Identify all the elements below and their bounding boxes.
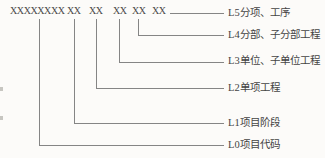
connector-horizontal-l0 (39, 145, 224, 146)
code-segment-l2: XX (89, 4, 103, 17)
connector-horizontal-l5 (170, 13, 224, 14)
code-segment-l5: XX (152, 4, 166, 17)
code-segment-l1: XX (67, 4, 81, 17)
level-label-l1: L1项目阶段 (228, 117, 280, 129)
connector-horizontal-l1 (74, 123, 224, 124)
connector-horizontal-l3 (119, 62, 224, 63)
connector-vertical-l1 (74, 19, 75, 123)
connector-vertical-l2 (96, 19, 97, 88)
scan-artifact (0, 87, 3, 91)
code-segment-l4: XX (132, 4, 146, 17)
connector-horizontal-l2 (96, 88, 224, 89)
code-structure-diagram: XXXXXXXX XX XX XX XX XX L5分项、工序 L4分部、子分部… (0, 0, 325, 158)
level-label-l4: L4分部、子分部工程 (228, 29, 320, 41)
code-segment-l3: XX (113, 4, 127, 17)
scan-artifact (0, 116, 3, 120)
level-label-l3: L3单位、子单位工程 (228, 55, 320, 67)
level-label-l2: L2单项工程 (228, 82, 280, 94)
level-label-l0: L0项目代码 (228, 139, 280, 151)
connector-horizontal-l4 (138, 35, 224, 36)
code-segment-l0: XXXXXXXX (10, 4, 65, 17)
level-label-l5: L5分项、工序 (228, 7, 290, 19)
connector-vertical-l0 (39, 19, 40, 145)
connector-vertical-l3 (119, 19, 120, 62)
connector-vertical-l4 (138, 19, 139, 35)
